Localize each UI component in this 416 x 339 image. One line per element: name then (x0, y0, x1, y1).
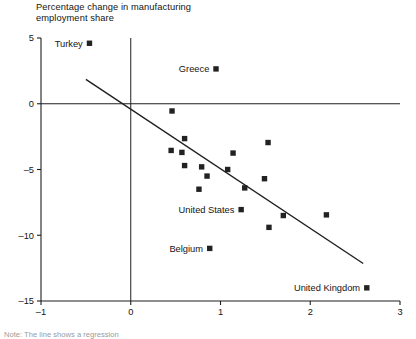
data-point-marker (266, 225, 271, 230)
data-points-group (87, 41, 370, 291)
data-point-marker (204, 173, 209, 178)
y-axis-tick-label: 0 (29, 99, 34, 109)
x-axis-tick-label: 0 (128, 307, 133, 317)
point-labels-group: TurkeyGreeceUnited StatesBelgiumUnited K… (55, 39, 361, 294)
x-axis-tick-label: 3 (397, 307, 402, 317)
data-point-marker (168, 148, 173, 153)
regression-line (86, 79, 363, 263)
data-point-marker (265, 140, 270, 145)
data-point-marker (225, 167, 230, 172)
y-axis-tick-label: –5 (24, 165, 34, 175)
data-point-label: Greece (179, 64, 210, 74)
data-point-marker (238, 207, 243, 212)
data-point-marker (169, 108, 174, 113)
data-point-marker (281, 213, 286, 218)
data-point-marker (182, 136, 187, 141)
data-point-marker (242, 185, 247, 190)
data-point-marker (87, 41, 92, 46)
data-point-marker (230, 150, 235, 155)
data-point-label: United States (179, 205, 235, 215)
data-point-marker (179, 150, 184, 155)
x-axis-tick-label: –1 (36, 307, 46, 317)
data-point-marker (182, 163, 187, 168)
data-point-marker (199, 164, 204, 169)
x-axis-tick-label: 2 (308, 307, 313, 317)
data-point-marker (364, 285, 369, 290)
y-axis-tick-label: 5 (29, 33, 34, 43)
data-point-marker (324, 212, 329, 217)
chart-footnote: Note: The line shows a regression (4, 330, 416, 339)
x-axis-tick-label: 1 (218, 307, 223, 317)
data-point-label: United Kingdom (294, 283, 360, 293)
data-point-marker (196, 187, 201, 192)
axes-group (37, 38, 400, 305)
data-point-marker (262, 176, 267, 181)
scatter-plot: TurkeyGreeceUnited StatesBelgiumUnited K… (0, 0, 416, 339)
x-axis-tick-labels: –10123 (36, 307, 403, 317)
y-axis-tick-labels: 50–5–10–15 (18, 33, 34, 306)
data-point-label: Turkey (55, 39, 83, 49)
data-point-marker (207, 246, 212, 251)
trendline-group (86, 79, 363, 263)
data-point-label: Belgium (169, 244, 203, 254)
data-point-marker (213, 66, 218, 71)
y-axis-tick-label: –15 (18, 296, 34, 306)
y-axis-tick-label: –10 (18, 231, 34, 241)
chart-figure: Percentage change in manufacturing emplo… (0, 0, 416, 339)
